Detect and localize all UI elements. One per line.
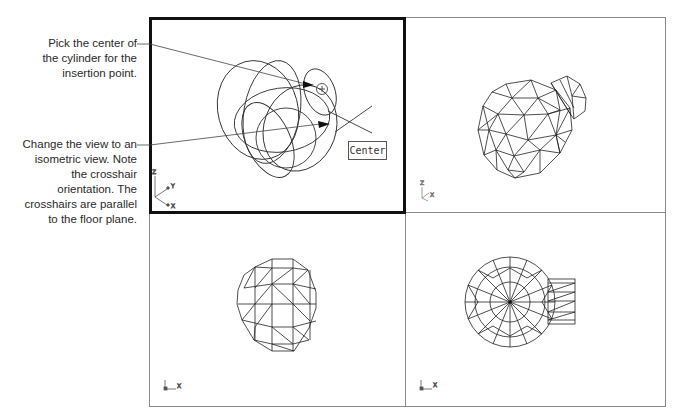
callout-line: orientation. The	[23, 182, 137, 197]
osnap-center-tooltip: Center	[348, 141, 387, 160]
callout-line: Pick the center of	[42, 36, 137, 51]
callout-line: to the floor plane.	[23, 212, 137, 227]
callout-line: the cylinder for the	[42, 51, 137, 66]
viewport-bottom-right[interactable]	[405, 212, 666, 407]
viewport-top-left-active[interactable]	[149, 17, 406, 214]
callout-line: insertion point.	[42, 66, 137, 81]
callout-isometric-view: Change the view to an isometric view. No…	[23, 137, 137, 227]
callout-line: Change the view to an	[23, 137, 137, 152]
viewport-top-right[interactable]	[405, 17, 666, 213]
viewport-bottom-left[interactable]	[149, 212, 406, 407]
callout-line: isometric view. Note	[23, 152, 137, 167]
callout-line: crosshairs are parallel	[23, 197, 137, 212]
callout-line: the crosshair	[23, 167, 137, 182]
callout-insertion-point: Pick the center of the cylinder for the …	[42, 36, 137, 81]
